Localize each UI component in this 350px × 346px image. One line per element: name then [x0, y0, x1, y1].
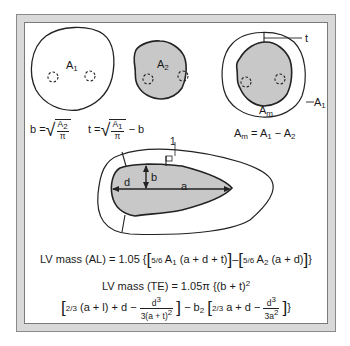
- equation-lv-mass-te-line2: [2/3 (a + l) + d − d33(a + t)2 ] − b2 [2…: [38, 296, 314, 321]
- label-thickness-t: t: [305, 33, 308, 44]
- formula-am: Am = A1 − A2: [234, 128, 295, 141]
- label-b: b: [151, 172, 157, 183]
- label-d: d: [124, 177, 130, 188]
- diagram-artwork: [0, 0, 350, 346]
- label-a: a: [181, 181, 187, 192]
- equation-lv-mass-al: LV mass (AL) = 1.05 {[5/6 A1 (a + d + t)…: [38, 250, 314, 270]
- label-a2-endocardial: A2: [157, 59, 169, 72]
- label-a1-epicardial: A1: [66, 60, 78, 73]
- label-t-longaxis: 1: [170, 137, 176, 147]
- formula-t: t =√A1π − b: [88, 119, 144, 141]
- label-am-myocardium: Am: [259, 105, 273, 118]
- label-a1-outer: A1: [314, 97, 326, 110]
- equation-lv-mass-te-line1: LV mass (TE) = 1.05π {(b + t)2: [38, 279, 314, 292]
- formula-b: b =√A2π: [30, 119, 71, 141]
